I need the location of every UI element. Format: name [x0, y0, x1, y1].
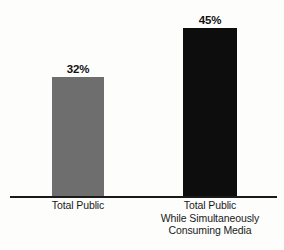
bar-value-label: 45% — [183, 14, 237, 26]
plot-area: 32% 45% — [0, 0, 284, 197]
bar-total-public-consuming-media — [183, 28, 237, 197]
category-label-line: Total Public — [150, 199, 270, 212]
bar-group-total-public-consuming-media: 45% — [183, 0, 237, 197]
category-label-total-public: Total Public — [28, 199, 128, 212]
bar-value-label: 32% — [52, 63, 104, 75]
x-axis-baseline — [10, 196, 277, 198]
bar-chart: 32% 45% Total Public Total Public While … — [0, 0, 284, 250]
bar-group-total-public: 32% — [52, 0, 104, 197]
category-label-line: Total Public — [28, 199, 128, 212]
category-axis-labels: Total Public Total Public While Simultan… — [0, 199, 284, 250]
category-label-line: Consuming Media — [150, 224, 270, 237]
bar-total-public — [52, 77, 104, 197]
category-label-total-public-consuming-media: Total Public While Simultaneously Consum… — [150, 199, 270, 237]
category-label-line: While Simultaneously — [150, 212, 270, 225]
